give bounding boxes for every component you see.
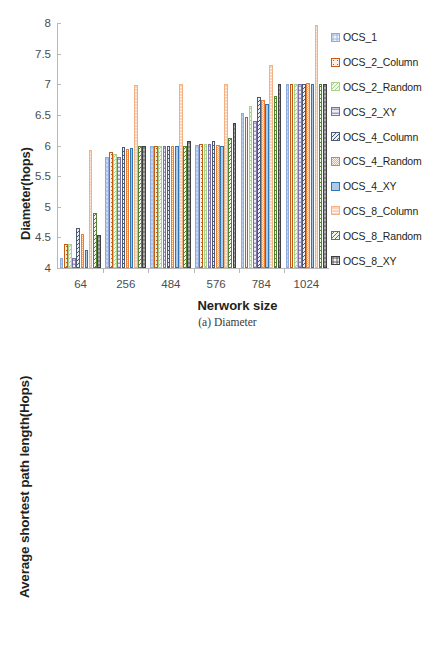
bar (286, 84, 290, 268)
legend-swatch-icon (331, 231, 340, 240)
bar (265, 104, 269, 268)
bar (167, 146, 171, 269)
legend-label: OCS_2_Column (343, 56, 418, 68)
bar (187, 141, 191, 268)
legend-item[interactable]: OCS_2_Random (331, 75, 443, 100)
bar (294, 84, 298, 268)
legend-swatch-icon (331, 58, 340, 67)
bar (134, 85, 138, 268)
legend-swatch-icon (331, 182, 340, 191)
legend-label: OCS_2_XY (343, 106, 396, 118)
legend-label: OCS_4_XY (343, 180, 396, 192)
bar (138, 146, 142, 269)
bar (278, 84, 282, 268)
legend-item[interactable]: OCS_2_XY (331, 99, 443, 124)
bar (142, 146, 146, 269)
legend-label: OCS_1 (343, 31, 377, 43)
bar (311, 84, 315, 268)
legend-item[interactable]: OCS_4_XY (331, 174, 443, 199)
y-axis-tick: 4 (45, 262, 58, 274)
bar (220, 146, 224, 269)
bar (60, 258, 64, 268)
bar (175, 146, 179, 269)
legend-item[interactable]: OCS_1 (331, 25, 443, 50)
legend-item[interactable]: OCS_4_Column (331, 124, 443, 149)
x-axis-tick: 64 (74, 278, 87, 290)
bar (199, 144, 203, 268)
bar (109, 152, 113, 268)
bar (72, 258, 76, 268)
figure-diameter: Diameter(hops) 44.555.566.577.5864256484… (0, 0, 443, 330)
bar (117, 157, 121, 268)
legend-item[interactable]: OCS_8_Column (331, 199, 443, 224)
axis-separator (194, 268, 195, 273)
legend-item[interactable]: OCS_2_Column (331, 50, 443, 75)
bar (89, 150, 93, 268)
bar (126, 149, 130, 268)
bar-group (150, 23, 192, 268)
legend-label: OCS_8_Random (343, 230, 422, 242)
bar-group (241, 23, 283, 268)
legend-swatch-icon (331, 157, 340, 166)
bar (241, 113, 245, 268)
bar (150, 146, 154, 269)
legend-item[interactable]: OCS_8_Random (331, 223, 443, 248)
bar (76, 228, 80, 268)
bar (85, 250, 89, 268)
bar-group (286, 23, 328, 268)
bar (158, 146, 162, 269)
bar (224, 84, 228, 268)
y-axis-tick: 4.5 (35, 231, 58, 243)
bar (319, 84, 323, 268)
legend-item[interactable]: OCS_8_XY (331, 248, 443, 273)
bar (228, 138, 232, 268)
bar (233, 123, 237, 268)
axis-separator (148, 268, 149, 273)
legend-swatch-icon (331, 256, 340, 265)
y-axis-tick: 5 (45, 201, 58, 213)
bar (81, 234, 85, 268)
bar (269, 65, 273, 268)
bar (274, 96, 278, 268)
bar (257, 97, 261, 269)
legend-label: OCS_8_XY (343, 255, 396, 267)
bar (208, 144, 212, 268)
axis-separator (103, 268, 104, 273)
bar (315, 25, 319, 268)
axis-separator (284, 268, 285, 273)
x-axis-tick: 784 (252, 278, 271, 290)
bar (204, 144, 208, 268)
bar (290, 84, 294, 268)
y-axis-tick: 6 (45, 140, 58, 152)
bar (195, 145, 199, 268)
bar (245, 117, 249, 268)
plot-area-diameter: 44.555.566.577.58642564845767841024 (57, 23, 329, 269)
y-axis-tick: 6.5 (35, 109, 58, 121)
x-axis-tick: 484 (161, 278, 180, 290)
bar (298, 84, 302, 268)
bar (68, 244, 72, 269)
bar-group (60, 23, 102, 268)
bar (261, 100, 265, 268)
bar (163, 146, 167, 269)
legend-swatch-icon (331, 82, 340, 91)
figure-aspl: Average shortest path length(Hops) 2.533… (0, 330, 443, 659)
legend-swatch-icon (331, 33, 340, 42)
bar (97, 235, 101, 268)
bar (93, 213, 97, 268)
bar (253, 121, 257, 268)
y-axis-title-aspl: Average shortest path length(Hops) (17, 376, 32, 598)
legend-item[interactable]: OCS_4_Random (331, 149, 443, 174)
bar-group (195, 23, 237, 268)
legend-label: OCS_4_Random (343, 155, 422, 167)
bar (249, 106, 253, 268)
legend-swatch-icon (331, 132, 340, 141)
x-axis-tick: 576 (206, 278, 225, 290)
bar (179, 84, 183, 268)
legend-swatch-icon (331, 107, 340, 116)
bar (105, 157, 109, 268)
bar (212, 141, 216, 268)
bar (323, 84, 327, 268)
y-axis-tick: 7.5 (35, 48, 58, 60)
bar (183, 146, 187, 269)
